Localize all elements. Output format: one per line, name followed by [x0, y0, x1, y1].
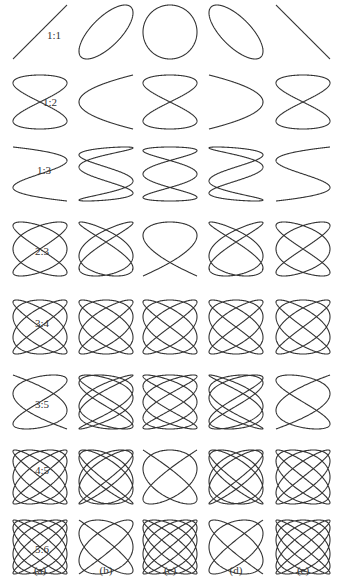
column-label: (b) [100, 564, 113, 576]
lissajous-curve-3-5-e [276, 375, 330, 429]
lissajous-curve-1-3-e [276, 147, 330, 201]
ratio-label: 1:2 [43, 96, 57, 108]
lissajous-curve-2-3-d [209, 222, 263, 276]
lissajous-curve-3-4-d [209, 300, 263, 354]
lissajous-curve-3-5-c [143, 375, 197, 429]
ratio-label: 4:5 [35, 464, 49, 476]
lissajous-curve-1-1-b [79, 5, 133, 59]
lissajous-curve-1-2-e [276, 75, 330, 129]
lissajous-curve-1-3-d [209, 147, 263, 201]
lissajous-curve-3-5-b [79, 375, 133, 429]
lissajous-curve-4-5-e [276, 450, 330, 504]
lissajous-curve-1-3-b [79, 147, 133, 201]
lissajous-curve-1-1-c [143, 5, 197, 59]
ratio-label: 3:5 [35, 398, 49, 410]
lissajous-curve-4-5-c [143, 450, 197, 504]
ratio-label: 1:3 [37, 164, 51, 176]
lissajous-curve-2-3-b [79, 222, 133, 276]
lissajous-curve-1-3-c [143, 147, 197, 201]
lissajous-curve-2-3-e [276, 222, 330, 276]
column-label: (d) [230, 564, 243, 576]
lissajous-curve-2-3-c [143, 222, 197, 276]
lissajous-curve-3-4-e [276, 300, 330, 354]
lissajous-curve-3-4-b [79, 300, 133, 354]
column-label: (a) [34, 564, 46, 576]
lissajous-curve-1-1-e [276, 5, 330, 59]
column-label: (e) [297, 564, 309, 576]
lissajous-curve-3-5-d [209, 375, 263, 429]
lissajous-curve-1-2-d [209, 75, 263, 129]
lissajous-curve-3-4-c [143, 300, 197, 354]
lissajous-figure-grid [0, 0, 354, 585]
ratio-label: 2:3 [35, 245, 49, 257]
lissajous-curve-1-2-a [13, 75, 67, 129]
lissajous-curve-1-1-d [209, 5, 263, 59]
ratio-label: 5:6 [35, 543, 49, 555]
lissajous-curve-4-5-b [79, 450, 133, 504]
lissajous-curve-1-2-b [79, 75, 133, 129]
ratio-label: 3:4 [35, 317, 49, 329]
column-label: (c) [164, 564, 176, 576]
lissajous-curve-4-5-d [209, 450, 263, 504]
lissajous-curve-1-2-c [143, 75, 197, 129]
ratio-label: 1:1 [47, 29, 61, 41]
lissajous-curve-4-5-a [13, 450, 67, 504]
